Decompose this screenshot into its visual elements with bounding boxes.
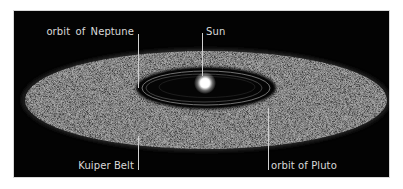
kuiper-belt-leader-line: [138, 136, 139, 170]
sun-leader-line: [202, 33, 203, 76]
neptune-leader-line: [138, 34, 139, 88]
label-orbit-of-neptune: orbit of Neptune: [46, 26, 134, 38]
label-sun: Sun: [206, 26, 225, 38]
label-kuiper-belt: Kuiper Belt: [78, 160, 134, 172]
sun: [194, 72, 216, 94]
pluto-leader-line: [268, 108, 269, 170]
diagram-panel: orbit of Neptune Sun Kuiper Belt orbit o…: [13, 10, 390, 178]
label-orbit-of-pluto: orbit of Pluto: [271, 160, 337, 172]
